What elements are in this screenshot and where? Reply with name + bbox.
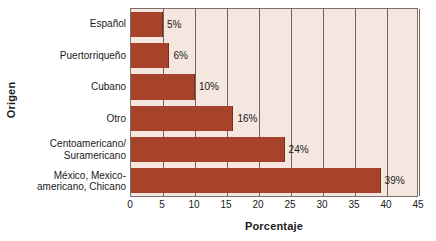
bar [131, 74, 195, 99]
category-label: Otro [20, 103, 130, 135]
bar-row: 6% [131, 40, 417, 71]
bars-layer: 5%6%10%16%24%39% [131, 9, 417, 196]
bar [131, 106, 233, 131]
bar-value-label: 5% [167, 19, 181, 30]
bar-value-label: 6% [173, 50, 187, 61]
gridline [419, 9, 420, 196]
x-axis-title: Porcentaje [130, 220, 418, 232]
x-tick-label: 45 [412, 199, 423, 210]
bar [131, 12, 163, 37]
bar-value-label: 16% [237, 113, 257, 124]
bar-row: 39% [131, 165, 417, 196]
x-tick-label: 10 [188, 199, 199, 210]
bar-row: 16% [131, 103, 417, 134]
bar-row: 24% [131, 134, 417, 165]
x-tick-label: 15 [220, 199, 231, 210]
bar-value-label: 24% [289, 144, 309, 155]
x-tick-label: 30 [316, 199, 327, 210]
bar-chart: Origen EspañolPuertorriqueñoCubanoOtroCe… [0, 0, 436, 241]
category-label: Español [20, 8, 130, 40]
category-label: Cubano [20, 71, 130, 103]
bar-row: 10% [131, 71, 417, 102]
x-tick-label: 25 [284, 199, 295, 210]
category-label: México, Mexico- americano, Chicano [20, 166, 130, 198]
bar-value-label: 10% [199, 81, 219, 92]
category-label: Puertorriqueño [20, 40, 130, 72]
x-tick-label: 20 [252, 199, 263, 210]
x-tick-label: 40 [380, 199, 391, 210]
bar [131, 43, 169, 68]
bar [131, 168, 381, 193]
category-label: Centoamericano/ Suramericano [20, 134, 130, 166]
x-tick-label: 35 [348, 199, 359, 210]
y-axis-title-text: Origen [5, 82, 17, 119]
x-tick-label: 0 [127, 199, 133, 210]
y-axis-title: Origen [0, 0, 22, 200]
x-tick-label: 5 [159, 199, 165, 210]
bar [131, 137, 285, 162]
x-axis-tick-labels: 051015202530354045 [130, 199, 418, 215]
bar-value-label: 39% [385, 175, 405, 186]
plot-area: 5%6%10%16%24%39% [130, 8, 418, 197]
bar-row: 5% [131, 9, 417, 40]
category-axis-labels: EspañolPuertorriqueñoCubanoOtroCentoamer… [20, 8, 130, 197]
